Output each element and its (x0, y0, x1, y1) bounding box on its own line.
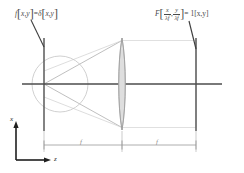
axis-label-z: z (54, 156, 57, 163)
output-equation-fraction-x-denominator: λf (164, 15, 170, 22)
input-plane-equation: f[x,y]=δ[x,y] (15, 8, 58, 20)
fourier-transform-lens-diagram: f[x,y]=δ[x,y] F[xλf,yλf]= 1[x,y] x z f f (0, 0, 244, 173)
output-label-leader-line (189, 21, 196, 49)
output-equation-fraction-x: xλf (164, 7, 171, 21)
optical-diagram-canvas (0, 0, 244, 173)
focal-length-label-right: f (156, 139, 158, 146)
output-equation-tail: = 1[x,y] (184, 9, 208, 18)
input-label-leader-line (31, 20, 44, 47)
focal-length-label-left: f (80, 139, 82, 146)
output-plane-equation: F[xλf,yλf]= 1[x,y] (155, 7, 209, 21)
axis-label-x: x (10, 116, 13, 123)
coordinate-axes (13, 121, 51, 163)
output-equation-fraction-y-denominator: λf (173, 15, 179, 22)
converging-lens (119, 38, 126, 130)
focal-distance-dimension-lines (44, 131, 196, 152)
input-equation-args: x,y (21, 9, 30, 18)
input-equation-delta-args: x,y (45, 9, 54, 18)
input-equation-delta-bracket-close: ] (54, 7, 58, 21)
